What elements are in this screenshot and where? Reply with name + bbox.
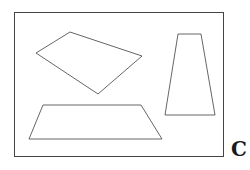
figure-canvas	[0, 0, 250, 170]
figure-label: C	[231, 139, 247, 159]
tall-trapezoid-shape	[165, 34, 215, 115]
parallelogram-shape	[36, 32, 142, 94]
wide-trapezoid-shape	[29, 105, 162, 139]
